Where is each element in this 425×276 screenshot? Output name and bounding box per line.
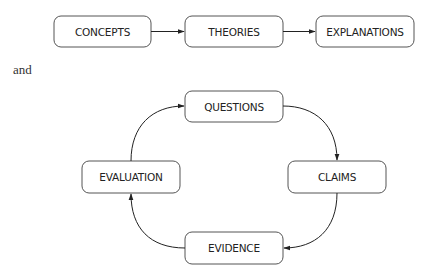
node-label: EVALUATION [99, 171, 162, 183]
node-theories: THEORIES [185, 16, 283, 47]
node-explanations: EXPLANATIONS [316, 16, 414, 47]
arrow-evidence-to-evaluation [131, 194, 185, 248]
node-label: CLAIMS [318, 171, 357, 183]
node-label: CONCEPTS [75, 26, 131, 38]
linear-flow-diagram: CONCEPTS THEORIES EXPLANATIONS [54, 16, 414, 47]
arrow-claims-to-evidence [284, 193, 337, 248]
node-evaluation: EVALUATION [82, 161, 180, 193]
node-label: THEORIES [207, 26, 260, 38]
node-label: EXPLANATIONS [326, 26, 404, 38]
node-concepts: CONCEPTS [54, 16, 151, 47]
cycle-diagram: QUESTIONS CLAIMS EVIDENCE EVALUATION [82, 91, 386, 264]
node-label: EVIDENCE [208, 242, 260, 254]
node-claims: CLAIMS [288, 161, 386, 193]
node-questions: QUESTIONS [185, 91, 283, 122]
node-evidence: EVIDENCE [185, 232, 283, 264]
arrow-evaluation-to-questions [131, 106, 184, 161]
node-label: QUESTIONS [204, 101, 264, 113]
conjunction-text: and [13, 62, 32, 77]
diagram-canvas: CONCEPTS THEORIES EXPLANATIONS and QUEST… [0, 0, 425, 276]
arrow-questions-to-claims [283, 106, 337, 160]
